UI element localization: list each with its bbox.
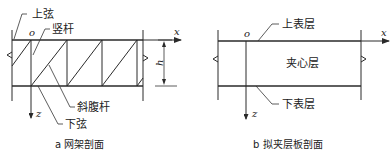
x-axis-label: x — [174, 26, 180, 37]
bottom-chord-label: 下弦 — [65, 117, 87, 131]
leader-bottom-chord — [38, 86, 63, 124]
z-axis-label: z — [35, 108, 42, 119]
dimension-arrow-down-icon — [162, 79, 166, 85]
diagonal-member-label: 斜腹杆 — [77, 100, 110, 114]
leader-vertical-member — [33, 29, 50, 55]
left-break-mark-icon — [7, 52, 12, 58]
dimension-arrow-up-icon — [162, 41, 166, 47]
diagonal-member — [102, 40, 137, 86]
diagram-canvas: 上弦 竖杆 斜腹杆 下弦 o x z h a 网架剖面 上表层 夹心层 下表层 … — [0, 0, 390, 157]
truss-section-diagram: 上弦 竖杆 斜腹杆 下弦 o x z h a 网架剖面 — [7, 7, 181, 150]
leader-top-chord — [14, 14, 27, 39]
origin-label: o — [244, 28, 250, 39]
left-break-mark-icon — [213, 56, 218, 62]
vertical-member-label: 竖杆 — [52, 22, 74, 36]
diagonal-member — [137, 78, 143, 86]
caption-a: a 网架剖面 — [55, 138, 104, 150]
diagonal-member — [12, 40, 31, 66]
caption-b: b 拟夹层板剖面 — [253, 138, 323, 150]
bottom-skin-label: 下表层 — [282, 97, 315, 111]
right-break-mark-icon — [143, 55, 148, 61]
right-break-mark-icon — [361, 56, 366, 62]
top-skin-label: 上表层 — [282, 17, 315, 31]
z-axis-label: z — [251, 108, 258, 119]
sandwich-plate-diagram: 上表层 夹心层 下表层 o x z b 拟夹层板剖面 — [213, 17, 389, 150]
origin-label: o — [29, 27, 35, 38]
core-layer-label: 夹心层 — [286, 57, 319, 70]
leader-top-skin — [258, 24, 279, 41]
leader-bottom-skin — [256, 86, 279, 104]
x-axis-label: x — [381, 27, 387, 38]
top-chord-label: 上弦 — [32, 7, 54, 21]
height-label: h — [154, 60, 165, 66]
diagonal-member — [67, 40, 102, 86]
